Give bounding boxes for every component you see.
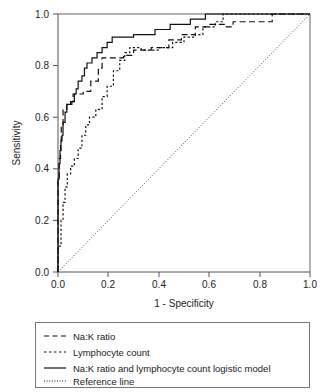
x-tick-label-5: 1.0	[303, 279, 317, 290]
x-axis-ticks	[58, 272, 310, 277]
y-tick-label-3: 0.6	[35, 112, 49, 123]
x-tick-label-1: 0.2	[101, 279, 115, 290]
y-axis-title: Sensitivity	[11, 120, 22, 165]
legend-item-logistic-model[interactable]: Na:K ratio and lymphocyte count logistic…	[44, 363, 271, 374]
y-tick-label-1: 0.2	[35, 215, 49, 226]
x-axis-tick-labels: 0.0 0.2 0.4 0.6 0.8 1.0	[51, 279, 317, 290]
legend-item-lymphocyte-count[interactable]: Lymphocyte count	[44, 347, 150, 358]
y-axis-tick-labels: 0.0 0.2 0.4 0.6 0.8 1.0	[35, 9, 49, 278]
y-tick-label-5: 1.0	[35, 9, 49, 20]
curve-group	[58, 14, 310, 272]
legend-item-nak-ratio[interactable]: Na:K ratio	[44, 331, 115, 342]
y-tick-label-2: 0.4	[35, 163, 49, 174]
y-tick-label-4: 0.8	[35, 60, 49, 71]
legend-label-logistic-model: Na:K ratio and lymphocyte count logistic…	[73, 363, 271, 374]
legend-item-reference-line[interactable]: Reference line	[44, 376, 134, 387]
x-tick-label-2: 0.4	[152, 279, 166, 290]
legend-label-reference-line: Reference line	[73, 376, 134, 387]
x-axis-title: 1 - Specificity	[154, 298, 213, 309]
reference-line-curve	[58, 14, 310, 272]
y-axis-ticks	[53, 14, 58, 272]
legend-label-nak-ratio: Na:K ratio	[73, 331, 115, 342]
roc-plot-svg: 0.0 0.2 0.4 0.6 0.8 1.0 0.0 0.2 0.4 0.6 …	[0, 0, 330, 392]
roc-curve-figure: 0.0 0.2 0.4 0.6 0.8 1.0 0.0 0.2 0.4 0.6 …	[0, 0, 330, 392]
legend: Na:K ratio Lymphocyte count Na:K ratio a…	[36, 323, 310, 388]
x-tick-label-3: 0.6	[202, 279, 216, 290]
y-tick-label-0: 0.0	[35, 267, 49, 278]
x-tick-label-0: 0.0	[51, 279, 65, 290]
x-tick-label-4: 0.8	[253, 279, 267, 290]
legend-label-lymphocyte-count: Lymphocyte count	[73, 347, 150, 358]
